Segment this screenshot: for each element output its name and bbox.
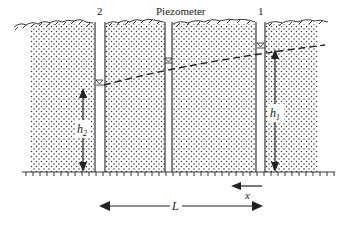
piezometer-2-label: 2 <box>97 5 103 17</box>
soil-block-3 <box>172 24 256 172</box>
arrow-left-icon <box>99 201 110 211</box>
arrow-left-icon <box>231 182 241 190</box>
arrow-right-icon <box>252 201 263 211</box>
piezometer-diagram: Piezometer 2 1 h2 h1 x L <box>0 0 348 225</box>
diagram-title: Piezometer <box>156 5 206 17</box>
water-level-icon-2 <box>96 80 103 84</box>
water-level-icon-mid <box>165 58 172 62</box>
L-dimension: L <box>99 199 263 213</box>
x-label: x <box>244 189 250 201</box>
x-direction-arrow: x <box>231 182 262 201</box>
soil-block-2 <box>105 24 165 172</box>
piezometer-1-label: 1 <box>258 5 264 17</box>
soil-block-4 <box>265 24 318 172</box>
L-label: L <box>171 199 179 213</box>
water-level-icon-1 <box>257 43 264 47</box>
impermeable-base <box>22 172 335 176</box>
